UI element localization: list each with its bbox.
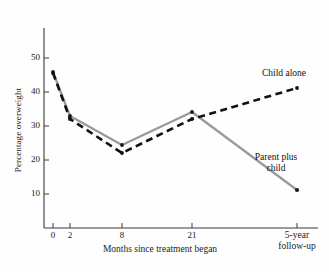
x-tick-label-21: 21 bbox=[172, 230, 212, 240]
x-tick-label-followup-line2: follow-up bbox=[267, 241, 327, 252]
series-label-child-alone: Child alone bbox=[244, 68, 324, 79]
series-label-parent-line1: Parent plus bbox=[236, 152, 316, 163]
series-child-alone-line bbox=[53, 73, 297, 153]
y-tick-label-20: 20 bbox=[22, 154, 40, 164]
y-tick-label-30: 30 bbox=[22, 120, 40, 130]
x-axis-ticks bbox=[53, 223, 297, 228]
y-axis-title: Percentage overweight bbox=[13, 65, 23, 195]
x-tick-label-8: 8 bbox=[102, 230, 142, 240]
x-tick-label-followup-line1: 5-year bbox=[267, 230, 327, 241]
series-child-alone-markers bbox=[51, 71, 299, 155]
series-label-parent-line2: child bbox=[236, 163, 316, 174]
x-tick-label-2: 2 bbox=[50, 230, 90, 240]
x-axis-title: Months since treatment began bbox=[60, 244, 260, 254]
y-tick-label-40: 40 bbox=[22, 86, 40, 96]
y-tick-label-10: 10 bbox=[22, 188, 40, 198]
chart-figure: Percentage overweight 50 40 30 20 10 0 2… bbox=[0, 0, 329, 272]
x-tick-label-followup: 5-year follow-up bbox=[267, 230, 327, 252]
y-tick-label-50: 50 bbox=[22, 52, 40, 62]
y-axis-ticks bbox=[44, 58, 49, 194]
series-label-parent-plus-child: Parent plus child bbox=[236, 152, 316, 174]
